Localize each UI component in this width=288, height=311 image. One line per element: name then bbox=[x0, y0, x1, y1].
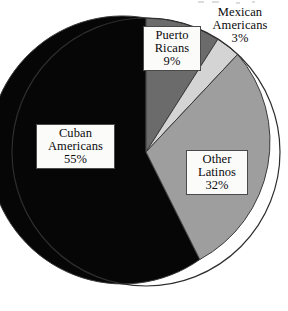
pie-label-puerto-ricans: Puerto Ricans 9% bbox=[143, 26, 201, 71]
pie-label-cuban-americans-line1: Cuban bbox=[41, 127, 110, 140]
pie-label-cuban-americans-line2: Americans bbox=[41, 140, 110, 153]
pie-label-other-latinos-value: 32% bbox=[191, 179, 243, 192]
pie-label-mexican-americans: Mexican Americans 3% bbox=[196, 6, 284, 45]
pie-label-puerto-ricans-value: 9% bbox=[148, 55, 196, 68]
pie-label-cuban-americans-value: 55% bbox=[41, 153, 110, 166]
pie-label-cuban-americans: Cuban Americans 55% bbox=[36, 124, 115, 169]
pie-label-mexican-americans-value: 3% bbox=[196, 32, 284, 45]
pie-label-puerto-ricans-line2: Ricans bbox=[148, 42, 196, 55]
pie-chart: Puerto Ricans 9% Mexican Americans 3% Ot… bbox=[0, 0, 288, 311]
pie-label-other-latinos-line1: Other bbox=[191, 153, 243, 166]
pie-label-puerto-ricans-line1: Puerto bbox=[148, 29, 196, 42]
pie-label-other-latinos: Other Latinos 32% bbox=[186, 150, 248, 195]
pie-label-other-latinos-line2: Latinos bbox=[191, 166, 243, 179]
